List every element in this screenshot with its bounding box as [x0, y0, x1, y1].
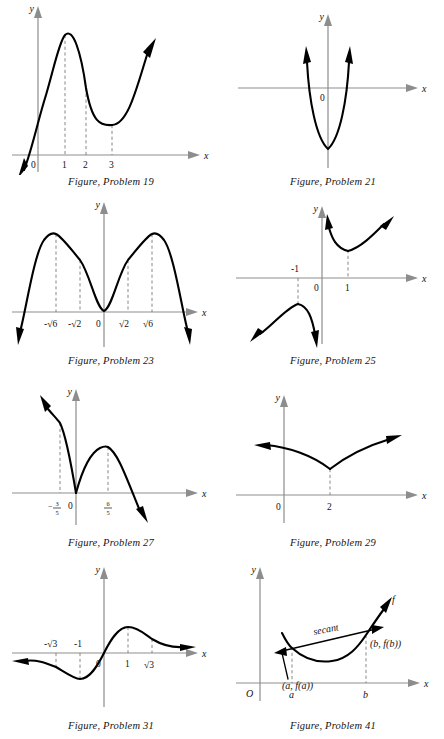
curve-arrow-left: [12, 658, 29, 665]
y-axis-label: y: [251, 564, 257, 575]
tick-text-neg-root2: -√2: [68, 319, 81, 329]
fraction-numerator-6: 6: [106, 500, 109, 507]
x-axis-arrow: [406, 274, 418, 282]
curve-arrow-down: [311, 330, 319, 348]
figure-problem-29: y x 0 2: [226, 373, 440, 536]
x-axis-arrow: [188, 151, 200, 159]
figure-cell-problem-25: y x -1 0 1 Figure, Problem 25: [222, 192, 444, 373]
x-axis-label: x: [201, 488, 207, 499]
y-axis-arrow: [34, 6, 42, 18]
figure-problem-31: y x -√3 -1 0 1 √3: [4, 555, 218, 719]
tick-text-neg-root6: -√6: [44, 319, 57, 329]
x-axis-arrow: [408, 679, 420, 687]
figure-page: y x 0 1 2 3 Figure, Problem 19: [0, 0, 444, 739]
tick-label-root6: √6: [143, 319, 153, 329]
tick-label-1: 1: [62, 160, 67, 170]
origin-label: 0: [31, 160, 36, 170]
curve-arrow-up: [325, 214, 333, 230]
figure-caption-problem-23: Figure, Problem 23: [0, 355, 222, 366]
figure-cell-problem-23: y x -√6 -√2 0 √2: [0, 192, 222, 373]
curve-arrow-left: [254, 442, 271, 450]
tick-label-b: b: [363, 689, 368, 700]
fraction-numerator-3: 3: [55, 500, 58, 507]
tick-text-root6: √6: [143, 319, 153, 329]
figure-problem-41: y x f secant (a, f(a)) (b, f(b)) O a: [226, 555, 440, 719]
curve-arrow-right: [345, 46, 353, 64]
secant-arrow-right: [372, 625, 384, 634]
tick-label-neg1: -1: [291, 264, 299, 274]
tick-label-2: 2: [83, 160, 88, 170]
x-axis-arrow: [186, 308, 198, 316]
y-axis-arrow: [280, 395, 288, 407]
figure-caption-problem-29: Figure, Problem 29: [222, 537, 444, 548]
point-label-a: (a, f(a)): [282, 680, 314, 692]
y-axis-label: y: [313, 203, 319, 214]
y-axis-arrow: [100, 567, 108, 579]
figure-grid: y x 0 1 2 3 Figure, Problem 19: [0, 0, 444, 739]
tick-label-1: 1: [125, 659, 130, 669]
curve-arrow-right: [184, 327, 192, 345]
figure-caption-problem-27: Figure, Problem 27: [0, 537, 222, 548]
curve-left-branch: [266, 445, 330, 469]
x-axis-label: x: [201, 307, 207, 318]
y-axis-label: y: [95, 564, 101, 575]
curve-branch-upper-right: [329, 224, 384, 251]
origin-label: 0: [276, 502, 281, 512]
x-axis-arrow: [406, 84, 418, 92]
curve-right-branch: [330, 439, 390, 469]
curve-label-f: f: [392, 594, 396, 605]
figure-cell-problem-21: y x 0 Figure, Problem 21: [222, 0, 444, 192]
x-axis-arrow: [186, 489, 198, 497]
figure-caption-problem-21: Figure, Problem 21: [222, 176, 444, 187]
figure-caption-problem-25: Figure, Problem 25: [222, 355, 444, 366]
figure-cell-problem-41: y x f secant (a, f(a)) (b, f(b)) O a: [222, 555, 444, 739]
tick-label-neg-root2: -√2: [68, 319, 81, 329]
figure-problem-23: y x -√6 -√2 0 √2: [4, 192, 218, 354]
figure-problem-27: y x − 3 5 0: [4, 373, 218, 536]
curve-arrow-upper: [143, 38, 156, 58]
origin-label: 0: [68, 501, 73, 511]
tick-label-2: 2: [327, 502, 332, 512]
y-axis-arrow: [256, 567, 264, 579]
curve-arrow-left: [16, 327, 24, 345]
origin-label: 0: [314, 283, 319, 293]
y-axis-label: y: [29, 3, 35, 14]
y-axis-label: y: [67, 386, 73, 397]
point-label-b: (b, f(b)): [370, 638, 402, 650]
curve-cubic: [24, 34, 147, 170]
x-axis-label: x: [203, 150, 209, 161]
y-axis-label: y: [275, 392, 281, 403]
tick-label-root2: √2: [119, 319, 129, 329]
y-axis-label: y: [95, 199, 101, 210]
curve-arrow-left: [250, 328, 264, 342]
figure-cell-problem-31: y x -√3 -1 0 1 √3 Figure, Problem 31: [0, 555, 222, 739]
tick-label-1: 1: [345, 283, 350, 293]
tick-label-a: a: [289, 689, 294, 700]
curve-arrow-lower-right: [136, 506, 148, 523]
x-axis-label: x: [421, 490, 427, 501]
tick-label-3: 3: [109, 160, 114, 170]
tick-label-neg1: -1: [74, 639, 82, 649]
tick-label-neg-root6: -√6: [44, 319, 57, 329]
curve-arrow-left: [303, 46, 311, 64]
curve-arrow-right: [380, 216, 394, 230]
x-axis-arrow: [406, 491, 418, 499]
figure-caption-problem-41: Figure, Problem 41: [222, 720, 444, 731]
x-axis-label: x: [201, 648, 207, 659]
x-axis-arrow: [186, 649, 198, 657]
curve-left-branch: [48, 409, 76, 493]
origin-label: O: [246, 688, 253, 699]
fraction-denominator-5: 5: [55, 509, 58, 516]
y-axis-arrow: [318, 206, 326, 218]
figure-caption-problem-31: Figure, Problem 31: [0, 720, 222, 731]
figure-problem-25: y x -1 0 1: [226, 192, 440, 354]
figure-problem-21: y x 0: [226, 0, 440, 175]
tick-label-neg-three-fifths: − 3 5: [48, 500, 61, 516]
leader-line-point-a: [282, 653, 288, 679]
secant-label: secant: [312, 621, 339, 637]
y-axis-arrow: [324, 14, 332, 26]
y-axis-label: y: [319, 11, 325, 22]
curve-arrow-right: [386, 435, 402, 444]
y-axis-arrow: [72, 389, 80, 401]
origin-label: 0: [96, 319, 101, 329]
